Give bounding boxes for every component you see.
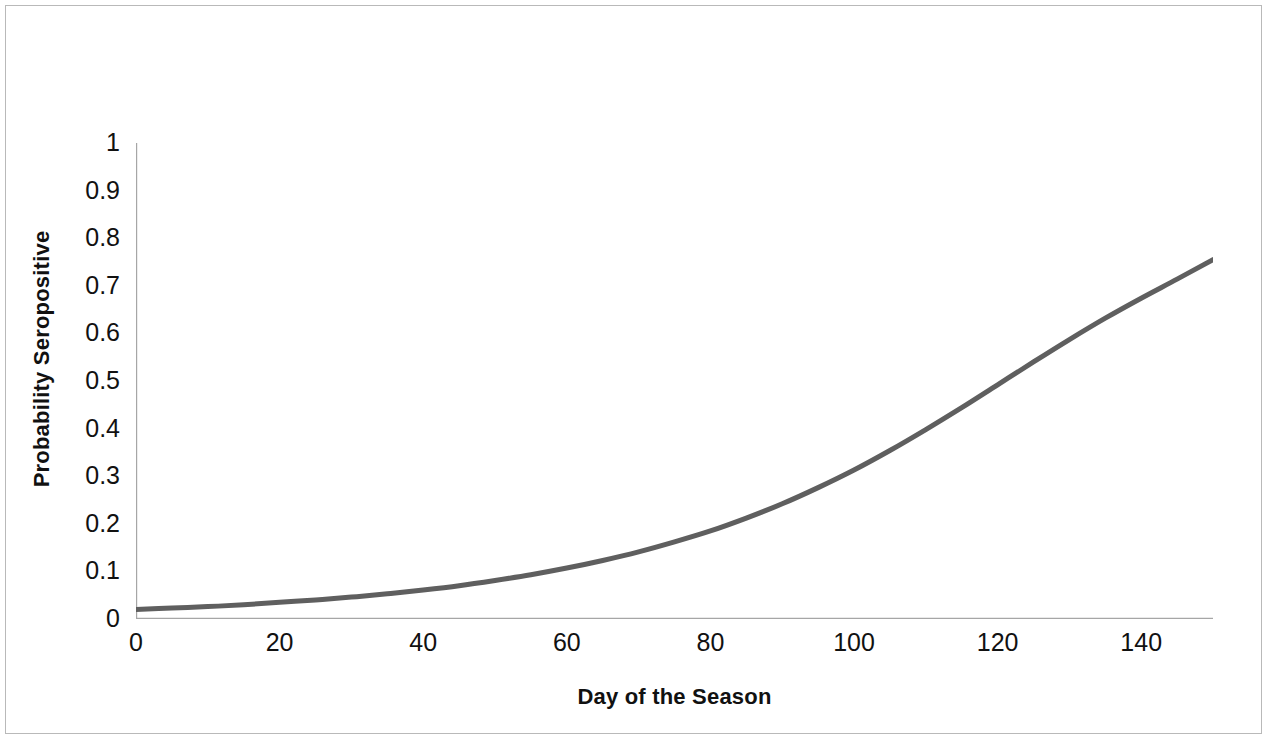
x-axis-tick-label: 80 bbox=[696, 630, 724, 655]
x-axis-title: Day of the Season bbox=[136, 684, 1213, 710]
y-axis-tick-label: 0.6 bbox=[85, 320, 120, 345]
y-axis-tick-label: 0.1 bbox=[85, 558, 120, 583]
x-axis-tick-label: 60 bbox=[553, 630, 581, 655]
x-axis-tick-label: 120 bbox=[977, 630, 1019, 655]
y-axis-tick-labels: 00.10.20.30.40.50.60.70.80.91 bbox=[60, 143, 120, 619]
axis-tick-marks bbox=[136, 143, 1141, 619]
y-axis-tick-label: 0.5 bbox=[85, 368, 120, 393]
x-axis-tick-label: 40 bbox=[409, 630, 437, 655]
y-axis-tick-label: 0.7 bbox=[85, 273, 120, 298]
chart-figure: Probability Seropositive 00.10.20.30.40.… bbox=[0, 0, 1269, 752]
y-axis-tick-label: 0.3 bbox=[85, 463, 120, 488]
data-series-line bbox=[136, 260, 1213, 610]
y-axis-title: Probability Seropositive bbox=[29, 149, 55, 569]
x-axis-tick-label: 100 bbox=[833, 630, 875, 655]
y-axis-tick-label: 0 bbox=[106, 606, 120, 631]
y-axis-tick-label: 0.9 bbox=[85, 178, 120, 203]
x-axis-tick-label: 20 bbox=[266, 630, 294, 655]
chart-plot-svg bbox=[136, 143, 1213, 619]
x-axis-tick-label: 0 bbox=[129, 630, 143, 655]
y-axis-tick-label: 0.4 bbox=[85, 416, 120, 441]
axis-lines bbox=[136, 143, 1213, 619]
y-axis-tick-label: 0.2 bbox=[85, 511, 120, 536]
data-series-group bbox=[136, 260, 1213, 610]
plot-area bbox=[136, 143, 1213, 619]
x-axis-tick-label: 140 bbox=[1120, 630, 1162, 655]
x-axis-tick-labels: 020406080100120140 bbox=[136, 630, 1213, 670]
y-axis-tick-label: 1 bbox=[106, 130, 120, 155]
y-axis-tick-label: 0.8 bbox=[85, 225, 120, 250]
